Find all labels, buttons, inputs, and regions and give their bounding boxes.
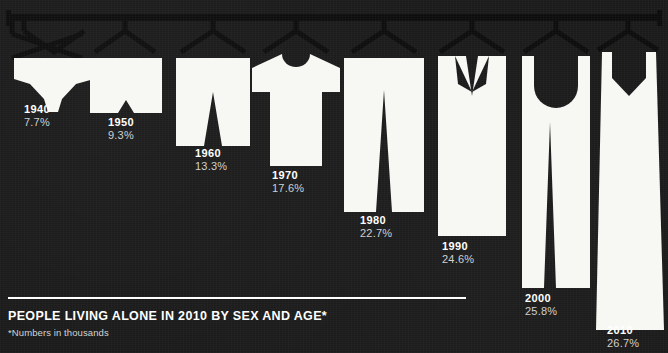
garment-1980-trousers <box>344 21 424 212</box>
datapoint-year-1940: 1940 <box>24 104 50 116</box>
datapoint-label-1970: 1970 17.6% <box>272 170 304 195</box>
chart-title: PEOPLE LIVING ALONE IN 2010 BY SEX AND A… <box>8 309 327 323</box>
clothes-rail <box>6 10 662 26</box>
garment-2010-long-dress <box>596 21 664 342</box>
garment-1990-jacket <box>438 21 506 236</box>
garment-1940-briefs <box>14 21 94 112</box>
datapoint-value-1940: 7.7% <box>24 117 50 129</box>
datapoint-year-1960: 1960 <box>195 148 227 160</box>
footer: PEOPLE LIVING ALONE IN 2010 BY SEX AND A… <box>0 297 668 353</box>
datapoint-label-1940: 1940 7.7% <box>24 104 50 129</box>
garment-1960-shorts <box>176 21 250 146</box>
datapoint-value-1970: 17.6% <box>272 183 304 195</box>
footer-divider <box>8 297 466 299</box>
datapoint-year-1950: 1950 <box>108 117 134 129</box>
datapoint-label-1960: 1960 13.3% <box>195 148 227 173</box>
datapoint-value-1950: 9.3% <box>108 130 134 142</box>
datapoint-label-1950: 1950 9.3% <box>108 117 134 142</box>
datapoint-label-1990: 1990 24.6% <box>442 241 474 266</box>
garment-2000-overalls <box>522 21 590 300</box>
garment-1950-boxer-shorts <box>90 21 162 113</box>
datapoint-year-1980: 1980 <box>360 215 392 227</box>
datapoint-value-1980: 22.7% <box>360 228 392 240</box>
datapoint-label-1980: 1980 22.7% <box>360 215 392 240</box>
datapoint-value-1990: 24.6% <box>442 254 474 266</box>
garment-1970-tshirt <box>252 21 340 166</box>
datapoint-year-1990: 1990 <box>442 241 474 253</box>
chart-footnote: *Numbers in thousands <box>8 327 109 338</box>
datapoint-year-1970: 1970 <box>272 170 304 182</box>
datapoint-value-1960: 13.3% <box>195 161 227 173</box>
